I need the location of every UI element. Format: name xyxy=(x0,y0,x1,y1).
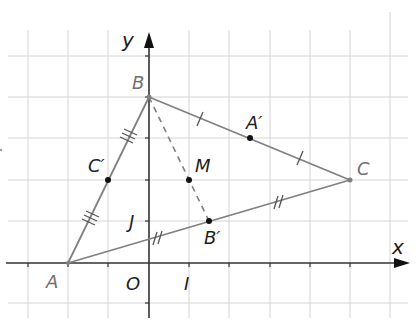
y-axis xyxy=(144,32,154,318)
point-a-prime xyxy=(247,135,253,141)
y-axis-label: y xyxy=(122,30,134,50)
geometry-figure: y x O I J A B C C′ A′ B′ M xyxy=(0,0,416,325)
point-b-prime xyxy=(206,218,212,224)
x-axis-label: x xyxy=(392,237,404,257)
point-label-b-prime: B′ xyxy=(204,229,220,247)
vertex-label-a: A xyxy=(46,273,58,291)
vertex-label-c: C xyxy=(357,160,370,178)
edge-dot xyxy=(0,149,2,151)
point-label-a-prime: A′ xyxy=(246,114,262,132)
point-m xyxy=(186,177,192,183)
point-label-c-prime: C′ xyxy=(88,157,105,175)
point-b xyxy=(147,95,152,100)
point-label-m: M xyxy=(195,157,211,175)
unit-x-label-i: I xyxy=(184,275,189,293)
origin-label: O xyxy=(126,275,140,293)
point-c-prime xyxy=(105,177,111,183)
vertex-label-b: B xyxy=(132,74,144,92)
point-a xyxy=(66,261,70,265)
unit-y-label-j: J xyxy=(129,213,134,231)
point-c xyxy=(348,178,353,183)
